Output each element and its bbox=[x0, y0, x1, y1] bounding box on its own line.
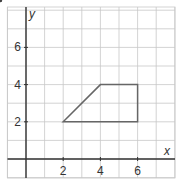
coordinate-diagram: x y 246246 bbox=[0, 0, 180, 188]
y-axis-label: y bbox=[28, 7, 36, 21]
x-axis-label: x bbox=[163, 144, 171, 158]
x-tick-label: 6 bbox=[134, 164, 141, 178]
marked-point-on-line bbox=[0, 0, 2, 2]
y-tick-label: 4 bbox=[14, 78, 21, 92]
grid bbox=[7, 7, 175, 178]
x-tick-label: 2 bbox=[60, 164, 67, 178]
y-tick-label: 6 bbox=[14, 40, 21, 54]
x-tick-label: 4 bbox=[97, 164, 104, 178]
grid-border bbox=[8, 7, 176, 178]
y-tick-label: 2 bbox=[14, 115, 21, 129]
